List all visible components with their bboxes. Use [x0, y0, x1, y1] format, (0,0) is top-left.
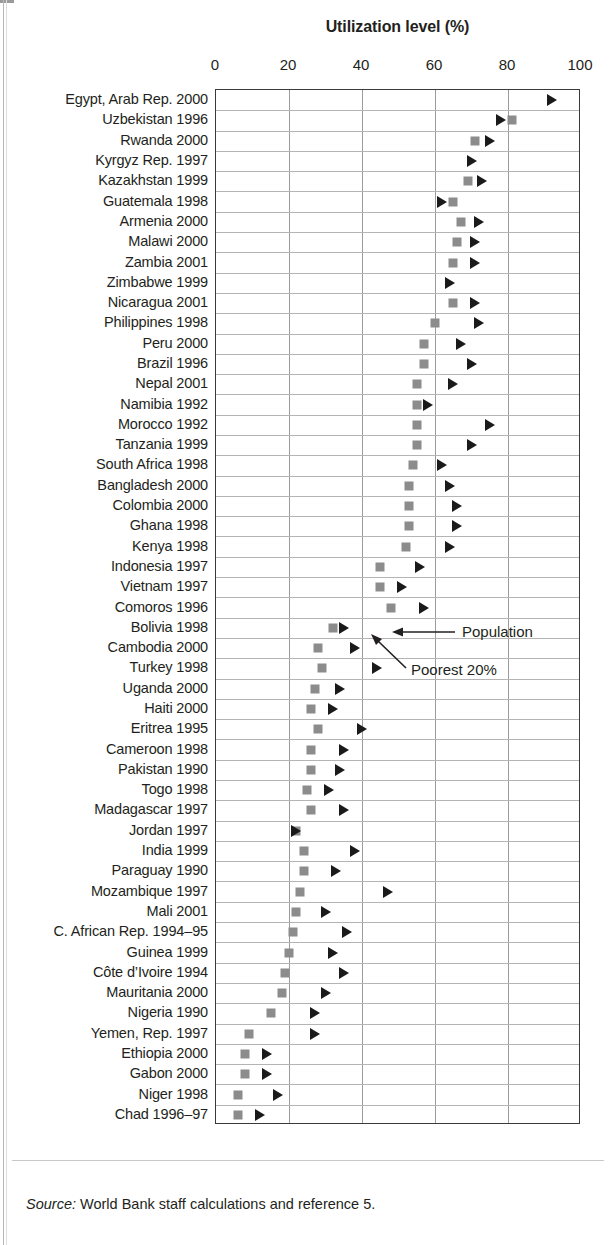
x-axis-tick-labels: 020406080100 [0, 56, 616, 78]
marker-population-34 [324, 784, 334, 796]
marker-population-35 [339, 804, 349, 816]
marker-population-16 [485, 419, 495, 431]
marker-population-13 [467, 358, 477, 370]
x-tick-label-0: 0 [211, 56, 219, 73]
category-label-7: Malawi 2000 [128, 234, 208, 249]
marker-poorest20-28 [317, 664, 326, 673]
marker-poorest20-6 [456, 217, 465, 226]
marker-population-46 [310, 1028, 320, 1040]
marker-poorest20-20 [405, 502, 414, 511]
category-label-45: Nigeria 1990 [128, 1005, 208, 1020]
marker-population-7 [470, 236, 480, 248]
marker-poorest20-24 [376, 583, 385, 592]
marker-poorest20-48 [241, 1070, 250, 1079]
marker-population-41 [342, 926, 352, 938]
source-text: World Bank staff calculations and refere… [76, 1196, 375, 1212]
category-label-8: Zambia 2001 [125, 254, 208, 269]
marker-poorest20-44 [277, 989, 286, 998]
marker-poorest20-8 [449, 258, 458, 267]
x-tick-label-100: 100 [567, 56, 592, 73]
category-label-28: Turkey 1998 [130, 660, 208, 675]
marker-population-50 [255, 1109, 265, 1121]
marker-population-9 [445, 277, 455, 289]
marker-poorest20-46 [244, 1029, 253, 1038]
marker-poorest20-50 [233, 1110, 242, 1119]
marker-population-32 [339, 744, 349, 756]
marker-poorest20-1 [507, 116, 516, 125]
category-label-49: Niger 1998 [139, 1086, 208, 1101]
category-label-37: India 1999 [142, 843, 208, 858]
marker-poorest20-26 [328, 623, 337, 632]
marker-poorest20-41 [288, 928, 297, 937]
category-label-50: Chad 1996–97 [115, 1107, 208, 1122]
marker-population-44 [321, 987, 331, 999]
marker-poorest20-32 [306, 745, 315, 754]
category-label-5: Guatemala 1998 [103, 193, 208, 208]
category-label-1: Uzbekistan 1996 [102, 112, 208, 127]
marker-poorest20-49 [233, 1090, 242, 1099]
marker-poorest20-19 [405, 481, 414, 490]
category-label-31: Eritrea 1995 [131, 721, 208, 736]
marker-poorest20-37 [299, 847, 308, 856]
x-tick-label-60: 60 [426, 56, 443, 73]
marker-poorest20-4 [463, 177, 472, 186]
marker-poorest20-18 [409, 461, 418, 470]
marker-population-47 [262, 1048, 272, 1060]
marker-poorest20-29 [310, 684, 319, 693]
marker-population-29 [335, 683, 345, 695]
category-label-25: Comoros 1996 [115, 599, 208, 614]
marker-poorest20-17 [412, 441, 421, 450]
category-label-41: C. African Rep. 1994–95 [53, 924, 208, 939]
category-label-14: Nepal 2001 [135, 376, 208, 391]
marker-population-43 [339, 967, 349, 979]
marker-poorest20-40 [292, 907, 301, 916]
category-label-3: Kyrgyz Rep. 1997 [95, 153, 208, 168]
marker-population-10 [470, 297, 480, 309]
population-annotation-label: Population [462, 623, 533, 640]
category-label-19: Bangladesh 2000 [97, 477, 208, 492]
marker-population-36 [291, 825, 301, 837]
marker-poorest20-31 [314, 725, 323, 734]
marker-population-26 [339, 622, 349, 634]
category-label-39: Mozambique 1997 [91, 883, 208, 898]
marker-population-21 [452, 520, 462, 532]
marker-poorest20-13 [420, 359, 429, 368]
category-label-4: Kazakhstan 1999 [98, 173, 208, 188]
category-label-40: Mali 2001 [146, 904, 208, 919]
category-label-2: Rwanda 2000 [120, 132, 208, 147]
category-label-32: Cameroon 1998 [106, 741, 208, 756]
category-label-36: Jordan 1997 [129, 822, 208, 837]
marker-population-37 [350, 845, 360, 857]
marker-population-14 [448, 378, 458, 390]
marker-population-30 [328, 703, 338, 715]
marker-population-2 [485, 135, 495, 147]
marker-population-23 [415, 561, 425, 573]
category-label-0: Egypt, Arab Rep. 2000 [65, 92, 208, 107]
marker-poorest20-12 [420, 339, 429, 348]
marker-population-5 [437, 196, 447, 208]
category-label-13: Brazil 1996 [137, 356, 208, 371]
marker-population-27 [350, 642, 360, 654]
marker-poorest20-10 [449, 299, 458, 308]
chart-title: Utilization level (%) [215, 18, 580, 36]
category-label-46: Yemen, Rep. 1997 [91, 1025, 208, 1040]
marker-poorest20-35 [306, 806, 315, 815]
category-label-6: Armenia 2000 [120, 214, 208, 229]
marker-population-19 [445, 480, 455, 492]
marker-population-20 [452, 500, 462, 512]
category-label-43: Côte d’Ivoire 1994 [93, 965, 208, 980]
marker-population-6 [474, 216, 484, 228]
marker-poorest20-43 [281, 968, 290, 977]
category-axis-labels: Egypt, Arab Rep. 2000Uzbekistan 1996Rwan… [0, 89, 208, 1124]
marker-population-3 [467, 155, 477, 167]
marker-poorest20-38 [299, 867, 308, 876]
marker-population-4 [477, 175, 487, 187]
marker-population-22 [445, 541, 455, 553]
category-label-18: South Africa 1998 [96, 457, 208, 472]
category-label-27: Cambodia 2000 [108, 640, 208, 655]
plot-area [215, 89, 580, 1124]
marker-population-39 [383, 886, 393, 898]
category-label-33: Pakistan 1990 [118, 762, 208, 777]
category-label-10: Nicaragua 2001 [108, 295, 208, 310]
marker-population-12 [456, 338, 466, 350]
